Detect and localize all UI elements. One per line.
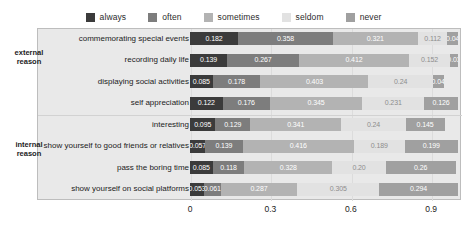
bar-value-label: 0.24 bbox=[394, 78, 407, 86]
legend-swatch-never-icon bbox=[346, 13, 355, 22]
legend-swatch-sometimes-icon bbox=[204, 13, 213, 22]
bar-value-label: 0.085 bbox=[193, 78, 210, 86]
legend-item-sometimes[interactable]: sometimes bbox=[204, 12, 260, 22]
bar-value-label: 0.139 bbox=[200, 56, 217, 64]
y-axis-label-0: commemorating special events bbox=[39, 34, 189, 44]
bar-segment-often[interactable]: 0.358 bbox=[238, 32, 333, 45]
bar-value-label: 0.328 bbox=[280, 164, 297, 172]
bar-segment-often[interactable]: 0.139 bbox=[205, 140, 242, 153]
bar-row[interactable]: 0.0530.0610.2870.3050.294 bbox=[190, 183, 458, 196]
bar-segment-seldom[interactable]: 0.305 bbox=[297, 183, 379, 196]
bar-value-label: 0.287 bbox=[250, 185, 267, 193]
bar-segment-sometimes[interactable]: 0.341 bbox=[250, 118, 341, 131]
bar-value-label: 0.122 bbox=[198, 99, 215, 107]
bar-segment-never[interactable]: 0.126 bbox=[424, 97, 458, 110]
bar-segment-always[interactable]: 0.182 bbox=[190, 32, 238, 45]
bar-row[interactable]: 0.1220.1760.3450.2310.126 bbox=[190, 97, 458, 110]
bar-row[interactable]: 0.1390.2670.4120.1520.03 bbox=[190, 54, 458, 67]
legend-item-never[interactable]: never bbox=[346, 12, 382, 22]
bar-value-label: 0.412 bbox=[345, 56, 362, 64]
bar-segment-never[interactable]: 0.26 bbox=[386, 161, 456, 174]
bar-segment-seldom[interactable]: 0.112 bbox=[418, 32, 448, 45]
bar-value-label: 0.085 bbox=[193, 164, 210, 172]
bar-row[interactable]: 0.0850.1780.4030.240.04 bbox=[190, 75, 458, 88]
bar-segment-sometimes[interactable]: 0.412 bbox=[299, 54, 409, 67]
x-axis-tick-0.6: 0.6 bbox=[345, 204, 357, 214]
x-axis: 00.30.60.9 bbox=[190, 200, 458, 222]
bar-value-label: 0.118 bbox=[220, 164, 237, 172]
bar-segment-often[interactable]: 0.118 bbox=[213, 161, 245, 174]
bar-segment-always[interactable]: 0.085 bbox=[190, 75, 213, 88]
bar-value-label: 0.152 bbox=[421, 56, 438, 64]
bar-row[interactable]: 0.1820.3580.3210.1120.04 bbox=[190, 32, 458, 45]
legend-item-seldom[interactable]: seldom bbox=[282, 12, 324, 22]
bar-value-label: 0.305 bbox=[330, 185, 347, 193]
bar-value-label: 0.057 bbox=[190, 142, 205, 150]
legend-swatch-often-icon bbox=[148, 13, 157, 22]
bar-segment-seldom[interactable]: 0.189 bbox=[354, 140, 405, 153]
bar-segment-sometimes[interactable]: 0.403 bbox=[260, 75, 368, 88]
bar-value-label: 0.20 bbox=[352, 164, 365, 172]
bar-segment-always[interactable]: 0.139 bbox=[190, 54, 227, 67]
bar-segment-never[interactable]: 0.04 bbox=[433, 75, 444, 88]
bar-row[interactable]: 0.0950.1290.3410.240.145 bbox=[190, 118, 458, 131]
bar-value-label: 0.199 bbox=[423, 142, 440, 150]
y-axis-label-3: self appreciation bbox=[39, 98, 189, 108]
bar-value-label: 0.112 bbox=[424, 35, 441, 43]
bar-segment-never[interactable]: 0.03 bbox=[450, 54, 458, 67]
bar-value-label: 0.294 bbox=[410, 185, 427, 193]
bar-segment-always[interactable]: 0.057 bbox=[190, 140, 205, 153]
bar-value-label: 0.345 bbox=[308, 99, 325, 107]
x-axis-tick-0: 0 bbox=[188, 204, 193, 214]
bar-segment-often[interactable]: 0.176 bbox=[223, 97, 270, 110]
bar-segment-sometimes[interactable]: 0.321 bbox=[333, 32, 418, 45]
bar-segment-always[interactable]: 0.085 bbox=[190, 161, 213, 174]
bar-segment-always[interactable]: 0.053 bbox=[190, 183, 204, 196]
chart-legend: alwaysoftensometimesseldomnever bbox=[0, 8, 467, 26]
bar-value-label: 0.178 bbox=[228, 78, 245, 86]
bars-container: 0.1820.3580.3210.1120.040.1390.2670.4120… bbox=[190, 28, 458, 200]
legend-label-sometimes: sometimes bbox=[218, 12, 260, 22]
legend-label-seldom: seldom bbox=[296, 12, 324, 22]
bar-segment-always[interactable]: 0.122 bbox=[190, 97, 223, 110]
bar-segment-often[interactable]: 0.178 bbox=[213, 75, 261, 88]
bar-segment-seldom[interactable]: 0.231 bbox=[362, 97, 424, 110]
legend-label-often: often bbox=[162, 12, 181, 22]
bar-value-label: 0.176 bbox=[238, 99, 255, 107]
bar-segment-often[interactable]: 0.129 bbox=[215, 118, 250, 131]
bar-segment-seldom[interactable]: 0.24 bbox=[341, 118, 405, 131]
y-axis-label-4: interesting bbox=[39, 120, 189, 130]
bar-value-label: 0.358 bbox=[277, 35, 294, 43]
legend-swatch-always-icon bbox=[86, 13, 95, 22]
bar-segment-often[interactable]: 0.061 bbox=[204, 183, 220, 196]
chart-root: alwaysoftensometimesseldomnever external… bbox=[0, 0, 467, 232]
x-axis-tick-0.9: 0.9 bbox=[425, 204, 437, 214]
bar-segment-never[interactable]: 0.199 bbox=[405, 140, 458, 153]
bar-value-label: 0.321 bbox=[367, 35, 384, 43]
bar-value-label: 0.061 bbox=[204, 185, 220, 193]
bar-segment-sometimes[interactable]: 0.328 bbox=[244, 161, 332, 174]
bar-segment-never[interactable]: 0.145 bbox=[406, 118, 445, 131]
bar-segment-never[interactable]: 0.294 bbox=[379, 183, 458, 196]
bar-segment-seldom[interactable]: 0.24 bbox=[368, 75, 432, 88]
bar-segment-often[interactable]: 0.267 bbox=[227, 54, 299, 67]
y-axis-label-2: displaying social activities bbox=[39, 77, 189, 87]
bar-value-label: 0.403 bbox=[306, 78, 323, 86]
bar-segment-sometimes[interactable]: 0.345 bbox=[270, 97, 362, 110]
bar-segment-seldom[interactable]: 0.20 bbox=[332, 161, 386, 174]
legend-item-often[interactable]: often bbox=[148, 12, 181, 22]
bar-segment-always[interactable]: 0.095 bbox=[190, 118, 215, 131]
bar-row[interactable]: 0.0850.1180.3280.200.26 bbox=[190, 161, 458, 174]
legend-item-always[interactable]: always bbox=[86, 12, 127, 22]
bar-segment-seldom[interactable]: 0.152 bbox=[409, 54, 450, 67]
y-axis-label-6: pass the boring time bbox=[39, 163, 189, 173]
bar-segment-sometimes[interactable]: 0.416 bbox=[243, 140, 354, 153]
bar-value-label: 0.053 bbox=[190, 185, 204, 193]
legend-label-never: never bbox=[360, 12, 382, 22]
bar-value-label: 0.231 bbox=[385, 99, 402, 107]
bar-row[interactable]: 0.0570.1390.4160.1890.199 bbox=[190, 140, 458, 153]
x-axis-tick-0.3: 0.3 bbox=[264, 204, 276, 214]
bar-segment-sometimes[interactable]: 0.287 bbox=[221, 183, 298, 196]
bar-segment-never[interactable]: 0.04 bbox=[447, 32, 458, 45]
bar-value-label: 0.189 bbox=[371, 142, 388, 150]
